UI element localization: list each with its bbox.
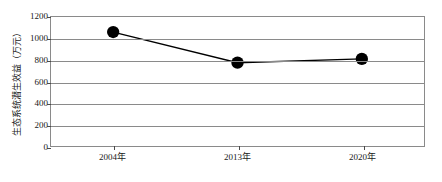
gridline [51,61,424,62]
y-axis-tick-mark [47,104,51,105]
x-axis-tick-label: 2020年 [349,153,376,162]
data-point-marker [231,57,243,69]
y-axis-tick-mark [47,61,51,62]
y-axis-tick-label: 1200 [22,12,48,21]
gridline [51,39,424,40]
y-axis-tick-mark [47,17,51,18]
y-axis-tick-mark [47,39,51,40]
chart-figure: 生态系统潜生效益（万元） 020040060080010001200 2004年… [0,0,442,182]
x-axis-tick-label: 2013年 [224,153,251,162]
x-axis-tick-mark [364,146,365,150]
gridline [51,104,424,105]
data-point-marker [356,53,368,65]
y-axis-tick-label: 0 [22,143,48,152]
series-markers [107,26,368,69]
plot-area [50,16,425,147]
x-axis-tick-mark [114,146,115,150]
y-axis-tick-mark [47,83,51,84]
y-axis-tick-label: 1000 [22,33,48,42]
x-axis-tick-label: 2004年 [99,153,126,162]
y-axis-tick-label: 400 [22,99,48,108]
y-axis-tick-label: 600 [22,77,48,86]
y-axis-title: 生态系统潜生效益（万元） [13,28,22,136]
y-axis-tick-mark [47,126,51,127]
gridline [51,83,424,84]
gridline [51,126,424,127]
x-axis-tick-labels: 2004年2013年2020年 [50,153,425,171]
y-axis-tick-mark [47,148,51,149]
y-axis-tick-labels: 020040060080010001200 [22,0,48,182]
data-point-marker [107,26,119,38]
y-axis-tick-label: 800 [22,55,48,64]
x-axis-tick-mark [239,146,240,150]
y-axis-tick-label: 200 [22,121,48,130]
